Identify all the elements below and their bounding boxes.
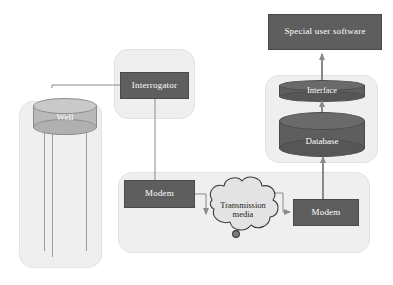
well-label: Well — [33, 112, 97, 122]
database-label: Database — [279, 136, 365, 146]
modem-field-box[interactable]: Modem — [124, 180, 195, 208]
well-cylinder[interactable]: Well — [33, 98, 97, 136]
database-cylinder-top-ellipse — [279, 112, 365, 130]
transmission-media-label-line2: media — [198, 210, 288, 219]
diagram-canvas: Well Interrogator Modem Modem Special us… — [0, 0, 393, 285]
database-cylinder[interactable]: Database — [279, 112, 365, 158]
edge-interrogator-to-well — [52, 85, 120, 88]
interface-label: Interface — [279, 85, 365, 95]
special-user-software-box[interactable]: Special user software — [268, 14, 382, 50]
well-pipe-right — [86, 124, 87, 251]
interrogator-label: Interrogator — [132, 81, 177, 90]
well-pipe-center — [52, 124, 53, 257]
modem-office-label: Modem — [312, 208, 341, 217]
interrogator-box[interactable]: Interrogator — [120, 72, 189, 99]
modem-office-box[interactable]: Modem — [293, 199, 359, 226]
interface-cylinder[interactable]: Interface — [279, 80, 365, 103]
well-pipe-left — [44, 124, 45, 251]
transmission-media-label: Transmission media — [198, 201, 288, 218]
special-user-software-label: Special user software — [284, 27, 365, 36]
modem-field-label: Modem — [145, 189, 174, 198]
